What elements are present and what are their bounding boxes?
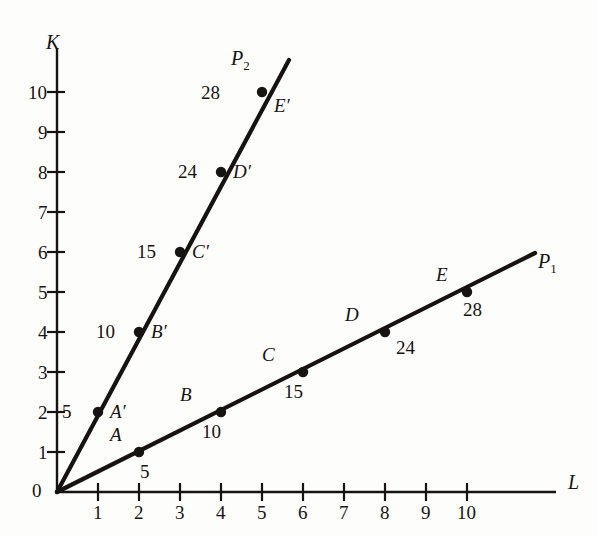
data-label-D-prime-value: 24 (178, 162, 197, 181)
data-label-E-name: E (436, 265, 448, 284)
data-label-D-prime-name: D′ (233, 162, 251, 181)
expansion-path-chart (0, 0, 598, 536)
y-tick-label-4: 4 (38, 323, 48, 342)
data-label-E-prime-name: E′ (274, 96, 290, 115)
x-tick-label-2: 2 (134, 503, 144, 522)
y-tick-label-10: 10 (28, 83, 47, 102)
data-point-C-prime (175, 247, 185, 257)
y-tick-label-8: 8 (38, 163, 48, 182)
x-tick-label-9: 9 (421, 503, 431, 522)
path-label-p1: P1 (538, 251, 557, 275)
data-label-C-name: C (262, 345, 275, 364)
y-tick-label-3: 3 (38, 363, 48, 382)
x-tick-label-5: 5 (257, 503, 267, 522)
data-label-D-value: 24 (396, 338, 415, 357)
x-axis-label: L (568, 472, 579, 492)
data-point-B-prime (134, 327, 144, 337)
x-tick-label-8: 8 (380, 503, 390, 522)
data-label-D-name: D (345, 305, 359, 324)
data-point-B (216, 407, 226, 417)
path-label-p2-sub: 2 (243, 58, 250, 73)
origin-label: 0 (32, 481, 42, 500)
path-label-p1-sub: 1 (550, 261, 557, 276)
data-label-C-prime-name: C′ (192, 242, 209, 261)
data-point-C (298, 367, 308, 377)
data-label-A-value: 5 (140, 462, 150, 481)
data-label-C-value: 15 (284, 382, 303, 401)
x-tick-label-7: 7 (339, 503, 349, 522)
data-point-D (380, 327, 390, 337)
data-label-E-prime-value: 28 (201, 83, 220, 102)
x-tick-label-4: 4 (216, 503, 226, 522)
data-point-E-prime (257, 87, 267, 97)
path-label-p1-text: P (538, 250, 550, 272)
data-label-A-prime-name: A′ (110, 402, 126, 421)
data-label-B-value: 10 (202, 422, 221, 441)
x-tick-label-3: 3 (175, 503, 185, 522)
data-point-D-prime (216, 167, 226, 177)
data-point-A-prime (93, 407, 103, 417)
data-label-A-prime-value: 5 (62, 402, 72, 421)
y-tick-label-2: 2 (38, 403, 48, 422)
data-point-A (134, 447, 144, 457)
data-label-B-name: B (180, 385, 192, 404)
y-tick-label-1: 1 (38, 443, 48, 462)
path-label-p2-text: P (231, 47, 243, 69)
x-tick-label-6: 6 (298, 503, 308, 522)
data-label-E-value: 28 (463, 300, 482, 319)
y-axis-label: K (46, 32, 59, 52)
x-tick-label-1: 1 (93, 503, 103, 522)
y-tick-label-6: 6 (38, 243, 48, 262)
y-tick-label-5: 5 (38, 283, 48, 302)
y-tick-label-7: 7 (38, 203, 48, 222)
data-label-B-prime-value: 10 (96, 322, 115, 341)
data-label-B-prime-name: B′ (151, 322, 167, 341)
y-tick-label-9: 9 (38, 123, 48, 142)
data-label-C-prime-value: 15 (137, 242, 156, 261)
path-label-p2: P2 (231, 48, 250, 72)
data-point-E (462, 287, 472, 297)
x-tick-label-10: 10 (457, 503, 476, 522)
data-label-A-name: A (110, 425, 122, 444)
